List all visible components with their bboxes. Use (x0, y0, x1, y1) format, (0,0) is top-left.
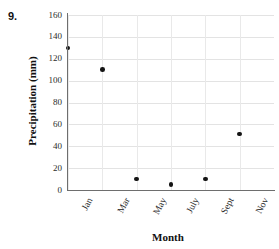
precipitation-scatter-figure: 9. Precipitation (mm) Month 020406080100… (0, 0, 279, 249)
gridline-x-july (171, 15, 172, 190)
y-axis-line (67, 13, 68, 191)
y-tick-label-100: 100 (18, 76, 62, 85)
x-tick-label-july: July (184, 196, 200, 215)
gridline-x-sept (205, 15, 206, 190)
y-tick-label-0: 0 (18, 186, 62, 195)
gridline-x-mar (102, 15, 103, 190)
data-point-sept (203, 177, 208, 182)
y-tick-label-40: 40 (18, 142, 62, 151)
y-tick-label-60: 60 (18, 120, 62, 129)
x-tick-label-may: May (151, 196, 168, 216)
x-tick-label-jan: Jan (80, 196, 95, 212)
x-axis-line (67, 190, 275, 191)
data-point-may (134, 177, 139, 182)
x-tick-label-sept: Sept (219, 196, 236, 216)
y-tick-label-80: 80 (18, 98, 62, 107)
x-tick-label-mar: Mar (116, 196, 132, 215)
plot-area (68, 15, 274, 190)
data-point-july (169, 182, 174, 187)
data-point-mar (100, 67, 105, 72)
y-tick-label-20: 20 (18, 164, 62, 173)
gridline-x-nov (240, 15, 241, 190)
y-tick-label-120: 120 (18, 54, 62, 63)
data-point-nov (237, 132, 242, 137)
y-tick-label-160: 160 (18, 11, 62, 20)
gridline-x-may (137, 15, 138, 190)
x-axis-tick-labels: JanMarMayJulySeptNov (0, 196, 279, 240)
x-tick-label-nov: Nov (253, 196, 270, 215)
y-tick-label-140: 140 (18, 32, 62, 41)
